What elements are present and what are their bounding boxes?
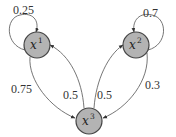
node-x1: x 1 [24, 32, 50, 58]
edge-label-x2-x3: 0.3 [145, 78, 160, 92]
edge-label-x1-x1: 0.25 [13, 3, 34, 17]
edge-label-x2-x2: 0.7 [143, 6, 158, 20]
markov-chain-diagram: 0.25 0.7 0.75 0.5 0.5 0.3 x 1 x 2 x 3 [0, 0, 176, 137]
node-x1-sup: 1 [38, 36, 43, 45]
edge-label-x1-x3: 0.75 [11, 82, 32, 96]
node-x2-label: x [129, 38, 136, 52]
node-x3-sup: 3 [90, 112, 95, 121]
edge-x2-x3 [103, 53, 147, 118]
node-x1-label: x [30, 38, 37, 52]
node-x2: x 2 [123, 32, 149, 58]
node-x3: x 3 [76, 108, 102, 134]
edge-label-x3-x2: 0.5 [97, 88, 112, 102]
node-x3-label: x [82, 114, 89, 128]
edge-label-x3-x1: 0.5 [63, 88, 78, 102]
node-x2-sup: 2 [137, 36, 142, 45]
